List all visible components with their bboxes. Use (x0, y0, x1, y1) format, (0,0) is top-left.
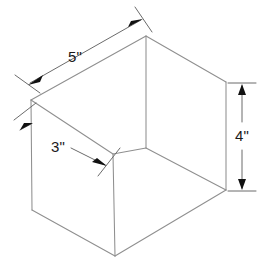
dimension-length-5in: 5" (15, 7, 152, 93)
dimension-length-extension-line (15, 75, 40, 93)
box-edge-inner-floor-right (146, 148, 226, 190)
box-dimension-diagram: 5" 3" (0, 0, 261, 268)
box-edge-bottom-front-left (32, 210, 115, 256)
dimension-depth-extension-line (14, 103, 36, 120)
dimension-height-4in: 4" (228, 83, 256, 191)
dimension-height-arrow-bottom (238, 179, 246, 190)
box-edge-inner-rim-left (31, 100, 113, 154)
dimension-label-depth: 3" (51, 138, 65, 155)
box-edge-inner-corner-vertical (113, 154, 115, 256)
figure-canvas: 5" 3" (0, 0, 261, 268)
dimension-label-height: 4" (235, 127, 249, 144)
box-edge-front-left-vertical (31, 100, 32, 210)
box-edge-bottom-front-right (115, 190, 226, 256)
box-edge-top-rear-left (31, 36, 146, 100)
dimension-depth-3in: 3" (14, 103, 120, 176)
dimension-length-line (30, 20, 141, 83)
dimension-length-extension-line-2 (135, 7, 152, 32)
dimension-height-arrow-top (238, 84, 246, 95)
box-edge-top-rear-right (146, 36, 226, 82)
dimension-length-arrow-start (28, 75, 43, 85)
dimension-label-length: 5" (68, 48, 82, 65)
